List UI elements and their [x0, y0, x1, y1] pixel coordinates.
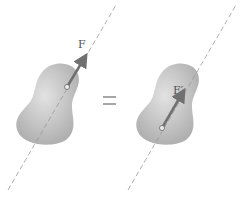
- diagram-canvas: [0, 0, 242, 203]
- left-line-of-action: [8, 5, 116, 190]
- right-line-of-action: [128, 5, 236, 190]
- left-application-point: [65, 85, 70, 90]
- left-rigid-body: [16, 64, 79, 145]
- right-force-label: F′: [173, 84, 183, 97]
- left-force-label: F: [78, 38, 86, 51]
- right-rigid-body: [136, 64, 199, 145]
- right-application-point: [160, 126, 165, 131]
